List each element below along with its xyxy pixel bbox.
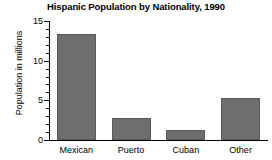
y-axis-major-tick bbox=[44, 21, 49, 22]
y-axis-major-tick bbox=[44, 140, 49, 141]
x-axis-line bbox=[49, 140, 268, 141]
y-axis-minor-tick bbox=[46, 77, 49, 78]
y-axis-minor-tick bbox=[46, 124, 49, 125]
x-axis-tick-label: Puerto bbox=[118, 145, 145, 155]
bar bbox=[57, 34, 96, 140]
bar-chart: Hispanic Population by Nationality, 1990… bbox=[0, 0, 272, 160]
y-axis-tick-label: 0 bbox=[38, 136, 43, 145]
y-axis-minor-tick bbox=[46, 37, 49, 38]
y-axis-tick-label: 10 bbox=[33, 56, 43, 65]
bar bbox=[166, 130, 205, 140]
y-axis-minor-tick bbox=[46, 108, 49, 109]
y-axis-minor-tick bbox=[46, 116, 49, 117]
y-axis-minor-tick bbox=[46, 132, 49, 133]
y-axis-tick-label: 15 bbox=[33, 17, 43, 26]
y-axis-minor-tick bbox=[46, 84, 49, 85]
y-axis-tick-label: 5 bbox=[38, 96, 43, 105]
y-axis-minor-tick bbox=[46, 45, 49, 46]
y-axis-minor-tick bbox=[46, 29, 49, 30]
chart-title: Hispanic Population by Nationality, 1990 bbox=[0, 1, 272, 13]
y-axis-major-tick bbox=[44, 100, 49, 101]
y-axis-minor-tick bbox=[46, 69, 49, 70]
x-axis-tick-label: Mexican bbox=[60, 145, 94, 155]
y-axis-line bbox=[49, 21, 50, 140]
y-axis-minor-tick bbox=[46, 92, 49, 93]
y-axis-minor-tick bbox=[46, 53, 49, 54]
x-axis-tick-label: Cuban bbox=[173, 145, 200, 155]
plot-area: 051015 MexicanPuertoCubanOther bbox=[49, 21, 268, 140]
bar bbox=[221, 98, 260, 140]
y-axis-title: Population in millions bbox=[14, 13, 24, 133]
x-axis-tick-label: Other bbox=[229, 145, 252, 155]
y-axis-major-tick bbox=[44, 61, 49, 62]
bar bbox=[112, 118, 151, 140]
